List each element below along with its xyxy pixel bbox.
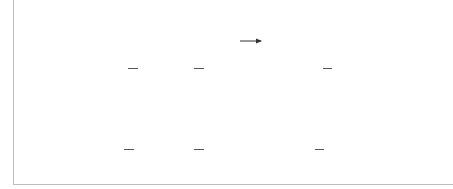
mixed-number-one-and-one-quarter — [314, 148, 324, 152]
fraction-one-half — [194, 148, 204, 152]
mixed-number-one-and-one-sixth — [322, 67, 332, 71]
fraction-five-sixths — [128, 67, 138, 71]
fraction-three-quarters — [124, 148, 134, 152]
fraction-one-third — [194, 67, 204, 71]
